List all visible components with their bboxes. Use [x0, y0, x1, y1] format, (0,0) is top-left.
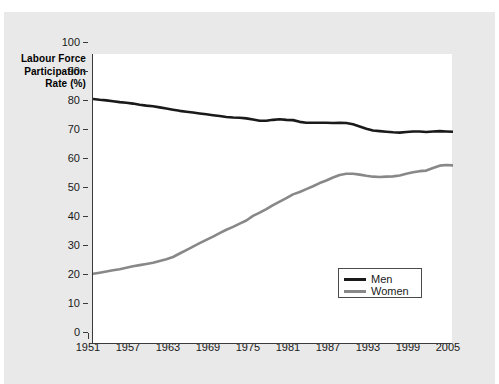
- legend-entry-women: Women: [344, 285, 409, 297]
- y-tick-label: 70: [40, 124, 80, 135]
- legend-entry-men: Men: [344, 273, 392, 285]
- x-tick-mark-major: [88, 333, 89, 339]
- y-tick-mark: [83, 187, 88, 188]
- y-tick-mark: [83, 245, 88, 246]
- y-tick-label: 20: [40, 269, 80, 280]
- y-tick-label: 80: [40, 95, 80, 106]
- y-axis-title-line-3: Rate (%): [12, 78, 86, 91]
- plot-panel: [92, 54, 452, 344]
- y-tick-label: 100: [40, 37, 80, 48]
- y-tick-label: 60: [40, 153, 80, 164]
- y-tick-label: 10: [40, 298, 80, 309]
- y-tick-mark: [83, 158, 88, 159]
- y-tick-label: 40: [40, 211, 80, 222]
- y-tick-mark: [83, 129, 88, 130]
- y-tick-mark: [83, 303, 88, 304]
- series-line-women: [93, 165, 453, 274]
- legend-label-men: Men: [371, 274, 392, 285]
- y-tick-label: 90: [40, 66, 80, 77]
- figure-canvas: Labour Force Participation Rate (%) 0102…: [4, 12, 495, 384]
- chart-figure: Labour Force Participation Rate (%) 0102…: [0, 0, 499, 384]
- series-line-men: [93, 99, 453, 133]
- plot-lines: [93, 54, 453, 344]
- y-axis-title-line-1: Labour Force: [12, 53, 86, 66]
- legend-swatch-men: [344, 278, 366, 281]
- y-tick-label: 50: [40, 182, 80, 193]
- legend-label-women: Women: [371, 286, 409, 297]
- y-tick-mark: [83, 274, 88, 275]
- y-tick-mark: [83, 71, 88, 72]
- y-tick-mark: [83, 100, 88, 101]
- y-tick-mark: [83, 216, 88, 217]
- legend: Men Women: [338, 268, 422, 298]
- legend-swatch-women: [344, 290, 366, 293]
- y-tick-label: 0: [40, 327, 80, 338]
- y-tick-mark: [83, 42, 88, 43]
- y-tick-label: 30: [40, 240, 80, 251]
